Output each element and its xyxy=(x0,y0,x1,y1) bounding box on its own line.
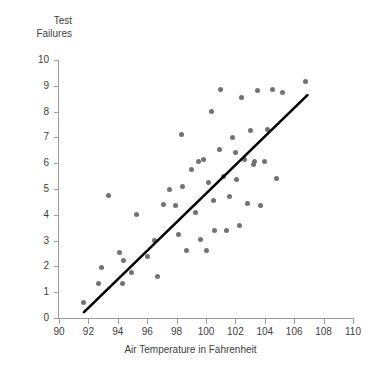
x-tick-label: 100 xyxy=(191,327,221,337)
x-tick-mark xyxy=(294,319,295,324)
x-tick-mark xyxy=(59,319,60,324)
y-tick-label: 9 xyxy=(5,81,49,91)
trendline-svg xyxy=(59,60,353,318)
x-tick-mark xyxy=(265,319,266,324)
x-tick-label: 110 xyxy=(338,327,368,337)
y-tick-label: 10 xyxy=(5,55,49,65)
x-tick-label: 102 xyxy=(220,327,250,337)
y-tick-label: 6 xyxy=(5,158,49,168)
x-axis-title: Air Temperature in Fahrenheit xyxy=(0,344,381,355)
x-tick-mark xyxy=(353,319,354,324)
y-tick-label: 3 xyxy=(5,236,49,246)
y-tick-label: 1 xyxy=(5,287,49,297)
y-tick-label: 5 xyxy=(5,184,49,194)
x-tick-mark xyxy=(235,319,236,324)
x-tick-label: 96 xyxy=(132,327,162,337)
y-axis-title: Test Failures xyxy=(0,14,72,40)
scatter-chart: Test Failures 012345678910 9092949698100… xyxy=(0,0,381,387)
y-tick-label: 2 xyxy=(5,261,49,271)
y-tick-label: 4 xyxy=(5,210,49,220)
x-tick-label: 106 xyxy=(279,327,309,337)
trendline xyxy=(84,95,307,312)
y-tick-label: 8 xyxy=(5,107,49,117)
plot-area xyxy=(59,60,353,318)
x-tick-label: 108 xyxy=(309,327,339,337)
x-tick-label: 104 xyxy=(250,327,280,337)
x-tick-label: 98 xyxy=(162,327,192,337)
y-tick-label: 7 xyxy=(5,132,49,142)
x-tick-mark xyxy=(177,319,178,324)
x-tick-mark xyxy=(88,319,89,324)
x-tick-mark xyxy=(206,319,207,324)
x-tick-mark xyxy=(118,319,119,324)
x-tick-label: 90 xyxy=(44,327,74,337)
x-tick-mark xyxy=(324,319,325,324)
y-tick-label: 0 xyxy=(5,313,49,323)
x-tick-mark xyxy=(147,319,148,324)
x-tick-label: 92 xyxy=(73,327,103,337)
x-tick-label: 94 xyxy=(103,327,133,337)
